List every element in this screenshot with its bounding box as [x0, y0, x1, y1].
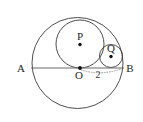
geometry-figure-container: A B O P Q 2 — [0, 0, 143, 122]
label-a: A — [17, 62, 25, 74]
point-marker-q — [109, 55, 112, 58]
label-q: Q — [107, 42, 115, 54]
label-o: O — [75, 69, 83, 81]
point-marker-p — [78, 43, 81, 46]
geometry-diagram: A B O P Q 2 — [0, 0, 143, 122]
dotted-measure-arc — [81, 69, 121, 73]
label-p: P — [77, 30, 83, 42]
label-b: B — [126, 62, 133, 74]
label-measure-2: 2 — [96, 69, 101, 80]
